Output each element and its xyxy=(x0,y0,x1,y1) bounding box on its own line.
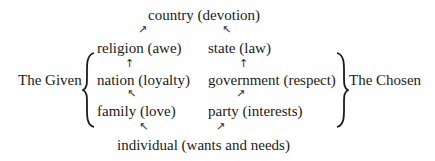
node-nation: nation (loyalty) xyxy=(97,71,190,89)
arrow-up-left-icon: ↖ xyxy=(222,24,231,36)
label-the-given: The Given xyxy=(18,71,82,89)
node-state: state (law) xyxy=(208,39,271,57)
node-individual: individual (wants and needs) xyxy=(117,136,290,154)
left-brace-icon xyxy=(82,52,96,128)
label-the-chosen: The Chosen xyxy=(349,71,421,89)
node-country: country (devotion) xyxy=(148,6,260,24)
node-religion: religion (awe) xyxy=(97,39,182,57)
node-government: government (respect) xyxy=(208,71,336,89)
arrow-up-right-icon: ↗ xyxy=(236,88,245,100)
arrow-up-right-icon: ↗ xyxy=(138,24,147,36)
arrow-up-left-icon: ↖ xyxy=(127,88,136,100)
arrow-up-right-icon: ↗ xyxy=(216,121,225,133)
node-family: family (love) xyxy=(97,102,176,120)
arrow-up-icon: ↑ xyxy=(125,58,134,70)
arrow-up-left-icon: ↖ xyxy=(139,121,148,133)
right-brace-icon xyxy=(335,52,349,128)
arrow-up-icon: ↑ xyxy=(239,58,248,70)
node-party: party (interests) xyxy=(208,102,303,120)
